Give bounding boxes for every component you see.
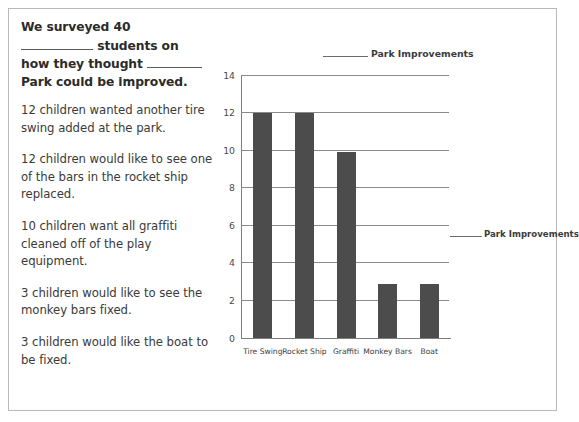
chart-side-label-text: Park Improvements bbox=[484, 229, 579, 239]
worksheet-page: We surveyed 40 students on how they thou… bbox=[8, 8, 557, 411]
fact-item: 3 children would like to see the monkey … bbox=[21, 285, 216, 320]
y-axis-tick-label: 2 bbox=[229, 294, 235, 305]
prompt-line-3: how they thought bbox=[21, 57, 147, 71]
blank-school-name bbox=[21, 37, 93, 50]
y-axis-tick-label: 14 bbox=[223, 69, 235, 80]
chart-title: Park Improvements bbox=[323, 48, 474, 59]
blank-side-line bbox=[450, 228, 482, 237]
blank-park-name bbox=[147, 55, 202, 68]
y-axis-tick-label: 4 bbox=[229, 257, 235, 268]
text-column: We surveyed 40 students on how they thou… bbox=[21, 19, 216, 383]
y-axis-tick-label: 10 bbox=[223, 144, 235, 155]
y-axis-tick-label: 8 bbox=[229, 182, 235, 193]
x-axis-tick-label: Boat bbox=[402, 347, 456, 358]
bar-chart: Park Improvements Park Improvements 0246… bbox=[205, 31, 555, 391]
blank-title-line bbox=[323, 48, 368, 57]
bar bbox=[420, 284, 439, 338]
x-axis-labels: Tire SwingRocket ShipGraffitiMonkey Bars… bbox=[242, 341, 450, 381]
fact-item: 3 children would like the boat to be fix… bbox=[21, 334, 216, 369]
y-axis-tick-label: 0 bbox=[229, 332, 235, 343]
prompt-line-1: We surveyed 40 bbox=[21, 20, 130, 34]
survey-prompt: We surveyed 40 students on how they thou… bbox=[21, 19, 216, 91]
bar bbox=[295, 113, 314, 338]
chart-side-label: Park Improvements bbox=[450, 228, 579, 239]
fact-item: 12 children would like to see one of the… bbox=[21, 151, 216, 204]
bars-group bbox=[242, 75, 450, 338]
prompt-line-2: students on bbox=[93, 39, 179, 53]
fact-item: 12 children wanted another tire swing ad… bbox=[21, 102, 216, 137]
bar bbox=[378, 284, 397, 338]
plot-area: 02468101214 Tire SwingRocket ShipGraffit… bbox=[241, 75, 449, 338]
bar bbox=[253, 113, 272, 338]
chart-title-text: Park Improvements bbox=[371, 48, 474, 59]
fact-item: 10 children want all graffiti cleaned of… bbox=[21, 218, 216, 271]
y-axis-tick-label: 6 bbox=[229, 219, 235, 230]
prompt-line-4: Park could be improved. bbox=[21, 75, 188, 89]
y-axis-tick-label: 12 bbox=[223, 107, 235, 118]
bar bbox=[337, 152, 356, 338]
